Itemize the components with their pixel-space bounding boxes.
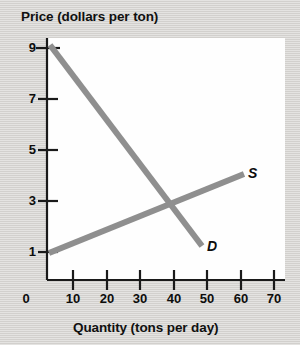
x-tick-label-20: 20 [94,291,120,306]
x-tick-label-40: 40 [161,291,187,306]
y-tick-label-3: 3 [20,193,36,208]
x-tick-label-60: 60 [228,291,254,306]
y-tick-label-5: 5 [20,142,36,157]
x-tick-label-30: 30 [127,291,153,306]
x-tick-label-70: 70 [261,291,287,306]
demand-curve-label: D [207,238,217,254]
x-tick-label-50: 50 [194,291,220,306]
x-axis-title: Quantity (tons per day) [73,320,218,335]
y-tick-label-1: 1 [20,244,36,259]
chart-figure: Price (dollars per ton) 9 7 5 [0,0,300,345]
x-tick-label-10: 10 [60,291,86,306]
demand-curve [50,45,202,246]
x-tick-label-0: 0 [13,291,39,306]
y-tick-label-9: 9 [20,40,36,55]
y-tick-label-7: 7 [20,91,36,106]
supply-curve-label: S [248,165,257,181]
